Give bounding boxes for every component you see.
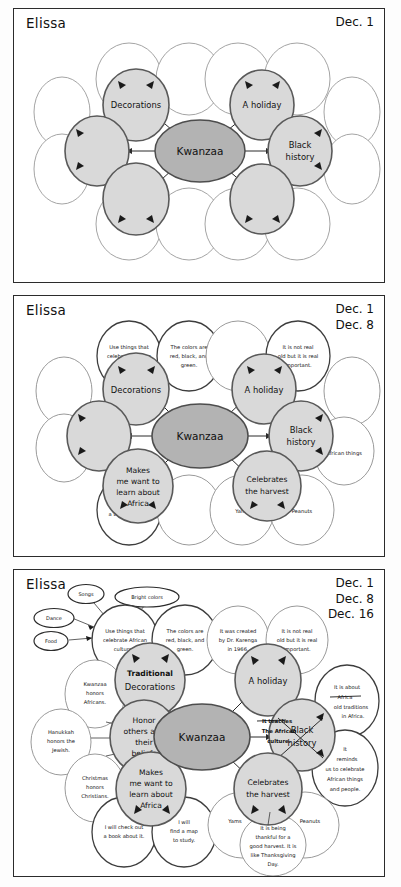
detail-label: thankful for a bbox=[256, 834, 291, 840]
detail-label: Kwanzaa bbox=[83, 681, 106, 687]
detail-label: Peanuts bbox=[300, 818, 321, 824]
main-node-label: Celebrates bbox=[247, 475, 288, 484]
detail-label: like Thanksgiving bbox=[251, 852, 296, 859]
detail-label: old traditions bbox=[334, 704, 369, 710]
detail-label: green. bbox=[177, 646, 194, 653]
annotation-it-teaches-line3: culture. bbox=[267, 738, 291, 744]
detail-label: red, black, and bbox=[166, 637, 205, 643]
detail-label: The colors are bbox=[166, 628, 204, 634]
detail-label: reminds bbox=[337, 756, 358, 762]
detail-label: find a map bbox=[170, 828, 199, 835]
tiny-node-label: Bright colors bbox=[131, 594, 163, 601]
concept-map-panel-3: Elissa Dec. 1 Dec. 8 Dec. 16 Songs Brigh… bbox=[13, 569, 385, 877]
detail-label: celebrate African bbox=[103, 637, 147, 643]
detail-label: green. bbox=[181, 362, 198, 369]
detail-label: in 1966. bbox=[227, 646, 249, 652]
detail-label: I will check out bbox=[105, 824, 144, 830]
main-node-black-history-label-2: history bbox=[287, 437, 316, 447]
detail-label: honors the bbox=[47, 738, 75, 744]
main-node-celebrates-harvest[interactable] bbox=[233, 451, 301, 521]
main-node-label: the harvest bbox=[246, 790, 290, 799]
tiny-node-label: Songs bbox=[78, 591, 94, 598]
main-node-label: Africa bbox=[127, 499, 149, 508]
detail-label: It is not real bbox=[282, 628, 313, 634]
main-node-decorations-label: Decorations bbox=[111, 385, 161, 395]
main-node-label: Decorations bbox=[125, 682, 175, 692]
detail-label: to study. bbox=[173, 837, 196, 844]
core-node-kwanzaa-label: Kwanzaa bbox=[179, 731, 226, 743]
main-node-holiday-label: A holiday bbox=[243, 100, 282, 110]
main-node-holiday-label: A holiday bbox=[245, 385, 284, 395]
detail-label: Jewish. bbox=[51, 747, 70, 754]
detail-label: The colors are bbox=[170, 344, 208, 350]
main-node-label: me want to bbox=[116, 477, 160, 486]
detail-label: by Dr. Karenga bbox=[219, 637, 257, 644]
main-node-lower-right-blank[interactable] bbox=[230, 164, 294, 234]
detail-label: Day. bbox=[267, 861, 279, 868]
detail-label: It is not real bbox=[283, 344, 314, 350]
annotation-it-teaches-line2: The African bbox=[262, 728, 297, 734]
main-node-label: Traditional bbox=[127, 669, 173, 678]
main-node-holiday-label: A holiday bbox=[249, 676, 288, 686]
blank-detail-node[interactable] bbox=[324, 134, 380, 204]
detail-label: old but it is real bbox=[277, 637, 318, 643]
main-node-label: Makes bbox=[139, 768, 163, 777]
detail-label: in Africa. bbox=[342, 713, 365, 719]
main-node-celebrates-harvest[interactable] bbox=[234, 753, 302, 825]
concept-map-svg-2: Use things that celebrate African cultur… bbox=[14, 296, 385, 557]
detail-label: a book about it. bbox=[104, 833, 145, 839]
detail-label: I will bbox=[178, 819, 190, 825]
main-node-label: Celebrates bbox=[248, 778, 289, 787]
tiny-node-label: Food bbox=[45, 638, 57, 644]
detail-label: It bbox=[343, 746, 347, 752]
concept-map-svg-3: Songs Bright colors Dance Food Use thing… bbox=[14, 570, 385, 877]
detail-label: Peanuts bbox=[292, 508, 313, 514]
detail-label: Use things that bbox=[105, 628, 145, 635]
detail-label: Yams bbox=[227, 818, 242, 824]
detail-label: honors bbox=[86, 784, 104, 790]
main-node-lower-left-blank[interactable] bbox=[103, 163, 169, 235]
core-node-kwanzaa-label: Kwanzaa bbox=[177, 430, 224, 442]
detail-label: Christmas bbox=[82, 775, 108, 781]
concept-map-panel-1: Elissa Dec. 1 bbox=[13, 8, 385, 283]
main-node-label: Honor bbox=[133, 716, 157, 725]
detail-label: us to celebrate bbox=[325, 766, 364, 772]
detail-label: Christians. bbox=[81, 793, 109, 799]
detail-label: Hanukkah bbox=[48, 729, 74, 735]
core-node-kwanzaa-label: Kwanzaa bbox=[177, 145, 224, 157]
main-node-label: me want to bbox=[129, 779, 173, 788]
detail-label: old but it is real bbox=[278, 353, 319, 359]
concept-map-panel-2: Elissa Dec. 1 Dec. 8 Use things that cel… bbox=[13, 295, 385, 557]
main-node-black-history-label-1: Black bbox=[289, 140, 312, 150]
detail-label: African things bbox=[327, 776, 363, 783]
detail-label: honors bbox=[86, 690, 104, 696]
detail-label: Use things that bbox=[109, 344, 149, 351]
tiny-node-label: Dance bbox=[46, 615, 62, 621]
detail-label: It is about bbox=[334, 684, 360, 690]
annotation-it-teaches-line1: It teaches bbox=[262, 718, 292, 724]
main-node-label: the harvest bbox=[245, 487, 289, 496]
detail-label: Africans. bbox=[84, 699, 107, 705]
detail-label: It was created bbox=[220, 628, 257, 634]
main-node-black-history-label-1: Black bbox=[290, 425, 313, 435]
detail-label: It is being bbox=[260, 825, 286, 832]
main-node-label: learn about bbox=[116, 488, 160, 497]
detail-label: and people. bbox=[330, 786, 361, 793]
main-node-label: learn about bbox=[129, 790, 173, 799]
main-node-black-history-label-2: history bbox=[286, 152, 315, 162]
main-node-label: Africa bbox=[140, 801, 162, 810]
concept-map-svg-1: Decorations A holiday Black history bbox=[14, 9, 385, 283]
detail-label: red, black, and bbox=[170, 353, 209, 359]
detail-label: good harvest. It is bbox=[250, 843, 297, 850]
blank-detail-node[interactable] bbox=[324, 357, 380, 425]
worksheet-sheet: Elissa Dec. 1 bbox=[0, 0, 401, 887]
main-node-label: their bbox=[135, 738, 154, 747]
main-node-decorations-label: Decorations bbox=[111, 100, 161, 110]
detail-label: African things bbox=[326, 450, 362, 457]
detail-label-struck: Africa bbox=[338, 694, 353, 700]
main-node-label: Makes bbox=[126, 466, 150, 475]
